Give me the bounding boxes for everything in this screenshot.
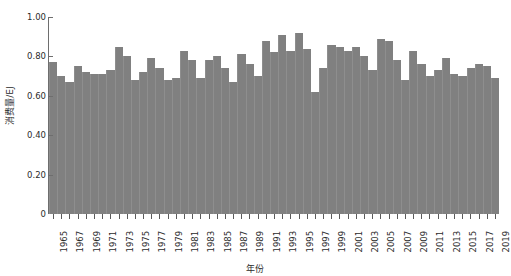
bar (196, 78, 204, 214)
x-tick-mark (495, 214, 496, 219)
x-tick-label: 1995 (304, 231, 314, 253)
bar (262, 41, 270, 214)
bar (155, 68, 163, 214)
y-tick-mark (48, 135, 53, 136)
x-axis-title: 年份 (0, 262, 509, 275)
y-tick-label: 0.20 (27, 170, 46, 180)
x-tick-mark (405, 214, 406, 219)
x-tick-label: 1975 (141, 231, 151, 253)
bar (336, 47, 344, 214)
x-tick-mark (364, 214, 365, 219)
bar (205, 60, 213, 214)
bar (319, 68, 327, 214)
bar (237, 54, 245, 214)
bar (327, 45, 335, 214)
bar (475, 64, 483, 214)
x-tick-mark (258, 214, 259, 219)
y-tick-mark (48, 175, 53, 176)
x-tick-mark (78, 214, 79, 219)
x-tick-mark (176, 214, 177, 219)
bar (270, 52, 278, 214)
x-tick-mark (487, 214, 488, 219)
x-tick-mark (135, 214, 136, 219)
bar (74, 66, 82, 214)
x-tick-mark (446, 214, 447, 219)
bar (491, 78, 499, 214)
x-tick-mark (159, 214, 160, 219)
x-tick-label: 2011 (435, 231, 445, 253)
x-tick-label: 1997 (321, 231, 331, 253)
bar (417, 64, 425, 214)
x-tick-mark (249, 214, 250, 219)
x-tick-mark (266, 214, 267, 219)
x-tick-mark (69, 214, 70, 219)
x-tick-label: 1991 (272, 231, 282, 253)
bar (123, 56, 131, 214)
x-tick-mark (389, 214, 390, 219)
bar (286, 51, 294, 215)
x-tick-label: 1993 (288, 231, 298, 253)
x-tick-label: 1973 (124, 231, 134, 253)
x-tick-mark (110, 214, 111, 219)
x-axis-tick-labels: 1965196719691971197319751977197919811983… (49, 220, 499, 262)
y-tick-mark (48, 17, 53, 18)
x-tick-label: 2013 (452, 231, 462, 253)
bar (458, 76, 466, 214)
x-tick-label: 1987 (239, 231, 249, 253)
x-tick-mark (225, 214, 226, 219)
x-tick-mark (168, 214, 169, 219)
x-tick-mark (102, 214, 103, 219)
x-tick-mark (290, 214, 291, 219)
bar (246, 64, 254, 214)
bar (221, 68, 229, 214)
bar (360, 56, 368, 214)
x-tick-mark (53, 214, 54, 219)
x-tick-mark (217, 214, 218, 219)
x-tick-mark (380, 214, 381, 219)
x-tick-label: 2019 (501, 231, 511, 253)
x-tick-mark (274, 214, 275, 219)
bar (49, 62, 57, 214)
x-tick-mark (356, 214, 357, 219)
bar (352, 47, 360, 214)
y-tick-mark (48, 96, 53, 97)
x-tick-label: 2017 (484, 231, 494, 253)
bar (377, 39, 385, 214)
x-tick-label: 1965 (59, 231, 69, 253)
x-tick-mark (462, 214, 463, 219)
bar (82, 72, 90, 214)
x-tick-mark (233, 214, 234, 219)
x-tick-mark (299, 214, 300, 219)
x-tick-mark (61, 214, 62, 219)
x-tick-mark (339, 214, 340, 219)
x-tick-mark (331, 214, 332, 219)
y-tick-mark (48, 56, 53, 57)
x-tick-label: 2005 (386, 231, 396, 253)
bar (57, 76, 65, 214)
x-tick-mark (413, 214, 414, 219)
bar (131, 80, 139, 214)
x-tick-mark (184, 214, 185, 219)
x-tick-mark (241, 214, 242, 219)
x-tick-label: 1989 (255, 231, 265, 253)
x-tick-mark (454, 214, 455, 219)
x-tick-mark (192, 214, 193, 219)
x-tick-label: 1979 (173, 231, 183, 253)
x-tick-label: 1971 (108, 231, 118, 253)
bar (98, 74, 106, 214)
x-tick-mark (372, 214, 373, 219)
bar (483, 66, 491, 214)
y-tick-label: 1.00 (27, 12, 46, 22)
x-tick-label: 2015 (468, 231, 478, 253)
x-tick-label: 2001 (353, 231, 363, 253)
y-tick-label: 0 (41, 209, 46, 219)
x-tick-label: 1967 (75, 231, 85, 253)
bar (303, 49, 311, 214)
x-tick-mark (429, 214, 430, 219)
x-tick-mark (94, 214, 95, 219)
y-tick-label: 0.80 (27, 51, 46, 61)
x-tick-mark (315, 214, 316, 219)
bar (393, 60, 401, 214)
x-tick-mark (151, 214, 152, 219)
